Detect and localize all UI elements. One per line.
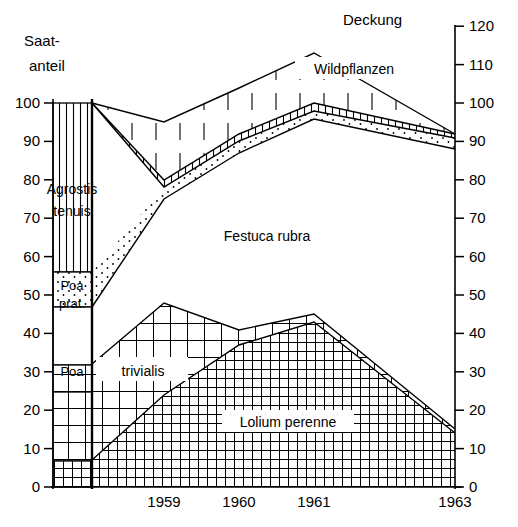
label-agrostis-line2: tenuis [53, 203, 90, 219]
left-tick-label: 30 [23, 363, 40, 380]
label-wildpflanzen: Wildpflanzen [314, 61, 394, 77]
left-axis-title-line2: anteil [29, 57, 65, 74]
right-tick-label: 70 [469, 209, 486, 226]
left-tick-label: 50 [23, 286, 40, 303]
left-axis-ticks: 1009080706050403020100 [15, 94, 53, 495]
seedbar-base-band [53, 461, 92, 487]
x-tick-label: 1960 [222, 493, 255, 510]
right-tick-label: 50 [469, 286, 486, 303]
seedbar-lolium-perenne [53, 392, 92, 461]
label-lolium-perenne: Lolium perenne [240, 414, 337, 430]
x-tick-label: 1961 [297, 493, 330, 510]
label-poa-pratensis-line1: Poa [60, 278, 84, 293]
seed-mix-bar [53, 103, 92, 487]
chart-svg: 1009080706050403020100 12011010090807060… [0, 0, 518, 527]
right-tick-label: 90 [469, 132, 486, 149]
left-tick-label: 40 [23, 324, 40, 341]
right-tick-label: 110 [469, 56, 493, 73]
left-tick-label: 20 [23, 401, 40, 418]
x-axis-ticks: 1959196019611963 [147, 493, 471, 510]
label-agrostis-line1: Agrostis [47, 181, 98, 197]
left-tick-label: 0 [32, 478, 40, 495]
label-poa-trivialis-line2: trivialis [122, 363, 165, 379]
chart-root: 1009080706050403020100 12011010090807060… [0, 0, 518, 527]
right-tick-label: 30 [469, 363, 486, 380]
right-tick-label: 20 [469, 401, 486, 418]
right-tick-label: 100 [469, 94, 494, 111]
right-tick-label: 60 [469, 248, 486, 265]
x-tick-label: 1959 [147, 493, 180, 510]
left-tick-label: 100 [15, 94, 40, 111]
left-tick-label: 10 [23, 440, 40, 457]
seedbar-festuca-rubra [53, 307, 92, 365]
right-axis-ticks: 1201101009080706050403020100 [455, 17, 494, 495]
right-tick-label: 80 [469, 171, 486, 188]
right-axis-title: Deckung [343, 11, 402, 28]
left-axis-title-line1: Saat- [24, 32, 60, 49]
left-tick-label: 60 [23, 248, 40, 265]
label-poa-pratensis-line2: prat. [59, 296, 85, 311]
left-tick-label: 80 [23, 171, 40, 188]
right-tick-label: 10 [469, 440, 486, 457]
left-tick-label: 90 [23, 132, 40, 149]
label-poa-trivialis-line1: Poa [60, 364, 84, 379]
left-tick-label: 70 [23, 209, 40, 226]
right-tick-label: 40 [469, 324, 486, 341]
right-tick-label: 120 [469, 17, 494, 34]
label-festuca-rubra: Festuca rubra [224, 228, 311, 244]
x-tick-label: 1963 [438, 493, 471, 510]
